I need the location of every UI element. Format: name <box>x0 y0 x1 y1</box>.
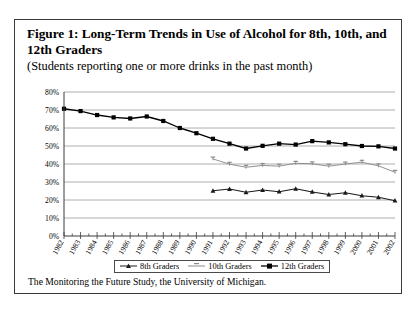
svg-text:1993: 1993 <box>232 238 247 256</box>
square-marker-icon <box>261 262 278 270</box>
svg-text:2002: 2002 <box>381 238 396 256</box>
source-note: The Monitoring the Future Study, the Uni… <box>28 276 266 287</box>
svg-text:1982: 1982 <box>50 238 65 256</box>
svg-text:2001: 2001 <box>365 238 380 256</box>
svg-text:80%: 80% <box>45 88 60 97</box>
svg-text:70%: 70% <box>45 106 60 115</box>
figure-subtitle: (Students reporting one or more drinks i… <box>27 59 393 74</box>
svg-text:60%: 60% <box>45 124 60 133</box>
dash-marker-icon <box>188 262 205 270</box>
figure-title-block: Figure 1: Long-Term Trends in Use of Alc… <box>27 26 393 74</box>
legend-item-8th: 8th Graders <box>120 262 179 271</box>
svg-text:50%: 50% <box>45 142 60 151</box>
legend-label-8th: 8th Graders <box>140 262 179 271</box>
svg-text:1995: 1995 <box>265 238 280 256</box>
legend-label-10th: 10th Graders <box>208 262 252 271</box>
line-chart: 0%10%20%30%40%50%60%70%80% 1982198319841… <box>15 86 403 262</box>
svg-text:1997: 1997 <box>299 238 314 256</box>
svg-text:20%: 20% <box>45 196 60 205</box>
chart-legend: 8th Graders 10th Graders 12th Graders <box>114 260 330 273</box>
chart-plot-area: 0%10%20%30%40%50%60%70%80% 1982198319841… <box>15 86 403 262</box>
figure-frame: Figure 1: Long-Term Trends in Use of Alc… <box>14 19 402 294</box>
svg-text:1996: 1996 <box>282 238 297 256</box>
svg-text:1990: 1990 <box>183 238 198 256</box>
svg-text:10%: 10% <box>45 214 60 223</box>
svg-text:1984: 1984 <box>83 238 98 256</box>
legend-item-10th: 10th Graders <box>188 262 252 271</box>
svg-text:1987: 1987 <box>133 238 148 256</box>
svg-text:40%: 40% <box>45 160 60 169</box>
triangle-marker-icon <box>120 262 137 270</box>
svg-text:1994: 1994 <box>249 238 264 256</box>
y-axis-tick-labels: 0%10%20%30%40%50%60%70%80% <box>45 88 60 241</box>
svg-text:2000: 2000 <box>348 238 363 256</box>
svg-text:1985: 1985 <box>100 238 115 256</box>
svg-text:1983: 1983 <box>67 238 82 256</box>
svg-text:1992: 1992 <box>216 238 231 256</box>
svg-text:1998: 1998 <box>315 238 330 256</box>
x-axis-tick-labels: 1982198319841985198619871988198919901991… <box>50 238 396 256</box>
page-title: Figure 1: Long-Term Trends in Use of Alc… <box>27 26 393 57</box>
svg-text:1986: 1986 <box>117 238 132 256</box>
svg-text:30%: 30% <box>45 178 60 187</box>
data-series-group <box>62 107 398 203</box>
svg-text:1988: 1988 <box>150 238 165 256</box>
svg-text:1989: 1989 <box>166 238 181 256</box>
svg-text:1991: 1991 <box>199 238 214 256</box>
legend-label-12th: 12th Graders <box>281 262 325 271</box>
gridlines-group <box>64 92 395 218</box>
svg-text:1999: 1999 <box>332 238 347 256</box>
legend-item-12th: 12th Graders <box>261 262 325 271</box>
